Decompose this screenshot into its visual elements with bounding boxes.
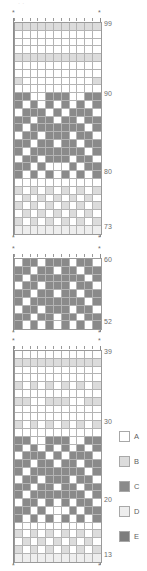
grid-cell[interactable]: [93, 93, 101, 101]
grid-cell[interactable]: [54, 46, 62, 54]
grid-cell[interactable]: [23, 523, 31, 531]
grid-cell[interactable]: [62, 117, 70, 125]
grid-cell[interactable]: [62, 406, 70, 414]
grid-cell[interactable]: [31, 259, 39, 267]
grid-cell[interactable]: [54, 298, 62, 306]
grid-cell[interactable]: [70, 132, 78, 140]
grid-cell[interactable]: [15, 390, 23, 398]
grid-cell[interactable]: [85, 515, 93, 523]
grid-cell[interactable]: [77, 282, 85, 290]
grid-cell[interactable]: [77, 298, 85, 306]
grid-cell[interactable]: [70, 530, 78, 538]
grid-cell[interactable]: [38, 275, 46, 283]
grid-cell[interactable]: [38, 460, 46, 468]
grid-cell[interactable]: [46, 499, 54, 507]
grid-cell[interactable]: [15, 314, 23, 322]
grid-cell[interactable]: [46, 491, 54, 499]
grid-cell[interactable]: [31, 538, 39, 546]
grid-cell[interactable]: [62, 226, 70, 234]
grid-cell[interactable]: [85, 195, 93, 203]
grid-cell[interactable]: [54, 367, 62, 375]
grid-cell[interactable]: [23, 70, 31, 78]
grid-cell[interactable]: [38, 554, 46, 562]
grid-cell[interactable]: [85, 171, 93, 179]
grid-cell[interactable]: [54, 31, 62, 39]
grid-cell[interactable]: [70, 523, 78, 531]
grid-cell[interactable]: [70, 259, 78, 267]
grid-cell[interactable]: [31, 367, 39, 375]
grid-cell[interactable]: [62, 93, 70, 101]
grid-cell[interactable]: [38, 93, 46, 101]
grid-cell[interactable]: [46, 156, 54, 164]
grid-cell[interactable]: [31, 421, 39, 429]
grid-cell[interactable]: [85, 530, 93, 538]
grid-cell[interactable]: [85, 390, 93, 398]
grid-cell[interactable]: [77, 202, 85, 210]
grid-cell[interactable]: [93, 31, 101, 39]
grid-cell[interactable]: [23, 163, 31, 171]
grid-cell[interactable]: [70, 210, 78, 218]
grid-cell[interactable]: [23, 421, 31, 429]
grid-cell[interactable]: [93, 484, 101, 492]
grid-cell[interactable]: [23, 499, 31, 507]
grid-cell[interactable]: [70, 491, 78, 499]
grid-cell[interactable]: [70, 218, 78, 226]
grid-cell[interactable]: [31, 163, 39, 171]
grid-cell[interactable]: [70, 70, 78, 78]
grid-cell[interactable]: [31, 195, 39, 203]
grid-cell[interactable]: [54, 476, 62, 484]
grid-cell[interactable]: [54, 267, 62, 275]
grid-cell[interactable]: [85, 499, 93, 507]
grid-cell[interactable]: [38, 124, 46, 132]
grid-cell[interactable]: [46, 382, 54, 390]
grid-cell[interactable]: [38, 321, 46, 329]
grid-cell[interactable]: [54, 390, 62, 398]
grid-cell[interactable]: [70, 554, 78, 562]
grid-cell[interactable]: [31, 101, 39, 109]
grid-cell[interactable]: [38, 101, 46, 109]
grid-cell[interactable]: [46, 210, 54, 218]
grid-cell[interactable]: [85, 359, 93, 367]
grid-cell[interactable]: [31, 374, 39, 382]
grid-cell[interactable]: [31, 46, 39, 54]
grid-cell[interactable]: [23, 507, 31, 515]
grid-cell[interactable]: [23, 298, 31, 306]
grid-cell[interactable]: [70, 476, 78, 484]
grid-cell[interactable]: [77, 321, 85, 329]
grid-cell[interactable]: [77, 476, 85, 484]
grid-cell[interactable]: [54, 85, 62, 93]
grid-cell[interactable]: [46, 298, 54, 306]
grid-cell[interactable]: [46, 218, 54, 226]
grid-cell[interactable]: [15, 140, 23, 148]
grid-cell[interactable]: [85, 351, 93, 359]
grid-cell[interactable]: [23, 23, 31, 31]
grid-cell[interactable]: [85, 109, 93, 117]
grid-cell[interactable]: [23, 351, 31, 359]
grid-cell[interactable]: [23, 275, 31, 283]
grid-cell[interactable]: [70, 275, 78, 283]
grid-cell[interactable]: [23, 484, 31, 492]
grid-cell[interactable]: [46, 523, 54, 531]
grid-cell[interactable]: [77, 460, 85, 468]
grid-cell[interactable]: [54, 39, 62, 47]
grid-cell[interactable]: [46, 226, 54, 234]
grid-cell[interactable]: [85, 275, 93, 283]
grid-cell[interactable]: [54, 515, 62, 523]
grid-cell[interactable]: [54, 218, 62, 226]
grid-cell[interactable]: [85, 452, 93, 460]
grid-cell[interactable]: [23, 406, 31, 414]
grid-cell[interactable]: [93, 298, 101, 306]
grid-cell[interactable]: [54, 538, 62, 546]
grid-cell[interactable]: [31, 484, 39, 492]
grid-cell[interactable]: [15, 195, 23, 203]
grid-cell[interactable]: [23, 202, 31, 210]
grid-cell[interactable]: [54, 62, 62, 70]
grid-cell[interactable]: [38, 31, 46, 39]
grid-cell[interactable]: [31, 62, 39, 70]
grid-cell[interactable]: [93, 429, 101, 437]
grid-cell[interactable]: [62, 413, 70, 421]
grid-cell[interactable]: [23, 445, 31, 453]
grid-cell[interactable]: [23, 54, 31, 62]
grid-cell[interactable]: [15, 359, 23, 367]
grid-cell[interactable]: [70, 101, 78, 109]
